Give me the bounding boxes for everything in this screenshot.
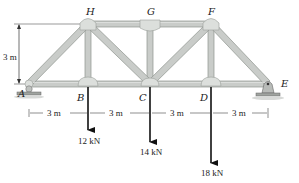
joint-label-c: C	[139, 92, 147, 103]
span-dim-de: 3 m	[232, 108, 246, 118]
joint-label-e: E	[280, 78, 289, 89]
joint-label-b: B	[76, 92, 84, 103]
height-dim-label: 3 m	[3, 52, 17, 62]
truss-diagram: 3 m	[0, 0, 299, 183]
span-dim-cd: 3 m	[170, 108, 184, 118]
joint-label-d: D	[199, 92, 208, 103]
joint-label-a: A	[17, 88, 25, 99]
joint-label-h: H	[85, 6, 95, 17]
load-label-b: 12 kN	[78, 136, 101, 146]
load-label-c: 14 kN	[140, 147, 163, 157]
joint-label-f: F	[207, 6, 216, 17]
span-dim-ab: 3 m	[47, 108, 61, 118]
joint-label-g: G	[147, 6, 155, 17]
span-dim-bc: 3 m	[109, 108, 123, 118]
load-label-d: 18 kN	[201, 168, 224, 178]
